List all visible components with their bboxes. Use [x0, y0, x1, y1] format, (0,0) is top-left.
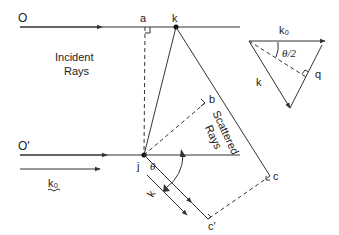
- label-theta: θ: [150, 160, 156, 172]
- label-vector-q: q: [315, 68, 321, 80]
- scattered-rays-label: Scattered Rays: [199, 109, 242, 162]
- label-half-angle: θ/2: [282, 47, 296, 59]
- label-c-prime: c′: [208, 220, 216, 232]
- incident-ray-o-prime: O′: [18, 139, 240, 155]
- label-o: O: [18, 11, 27, 25]
- label-o-prime: O′: [18, 139, 30, 153]
- incident-wavevector: k₀: [20, 169, 100, 191]
- tilde-underline: [48, 189, 60, 191]
- wavefront-c-c-prime: [208, 176, 270, 219]
- incident-ray-o: O: [18, 11, 240, 27]
- label-b: b: [209, 93, 215, 105]
- label-k-point: k: [172, 12, 178, 24]
- incident-rays-label-2: Rays: [64, 65, 90, 77]
- half-angle-arc: [276, 42, 278, 57]
- right-angle-c-prime: [208, 214, 211, 219]
- scattered-wavevector: k: [144, 175, 187, 215]
- path-a-j: [144, 27, 145, 155]
- theta-arc: [166, 155, 183, 188]
- label-j: j: [136, 160, 139, 172]
- path-j-k: [144, 27, 176, 155]
- incident-rays-label-1: Incident: [55, 51, 94, 63]
- vector-triangle: k₀ θ/2 k q: [249, 24, 325, 108]
- label-c: c: [273, 170, 279, 182]
- label-k0-incident: k₀: [48, 177, 58, 189]
- scattering-diagram: O O′ Incident Rays k₀ a k j b c c′ θ S: [0, 0, 339, 235]
- label-vector-k0: k₀: [279, 24, 289, 36]
- scattered-ray-k-c: [176, 27, 270, 176]
- right-angle-a: [145, 27, 150, 33]
- path-j-b: [144, 103, 205, 155]
- label-vector-k: k: [256, 76, 262, 88]
- label-k-scattered: k: [144, 188, 157, 199]
- bisector: [249, 41, 306, 77]
- right-angle-b: [201, 99, 205, 106]
- label-a: a: [140, 12, 147, 24]
